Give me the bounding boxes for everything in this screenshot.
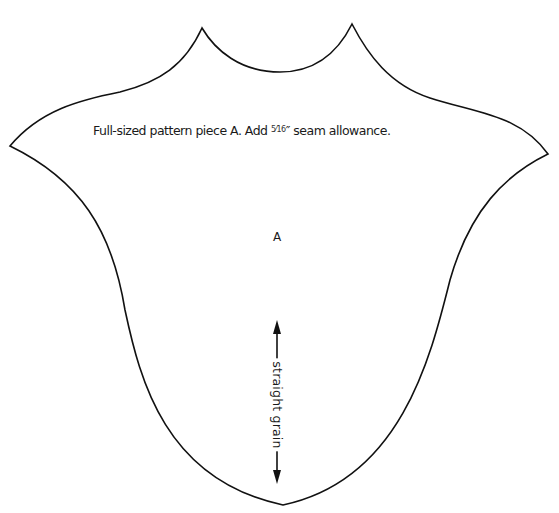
seam-allowance-fraction: 5⁄16 <box>271 125 286 134</box>
instruction-suffix: ″ seam allowance. <box>286 123 391 138</box>
instruction-text: Full-sized pattern piece A. Add 5⁄16″ se… <box>93 123 390 138</box>
grainline-label: straight grain <box>270 358 285 451</box>
instruction-prefix: Full-sized pattern piece A. Add <box>93 123 271 138</box>
piece-label: A <box>273 230 281 244</box>
